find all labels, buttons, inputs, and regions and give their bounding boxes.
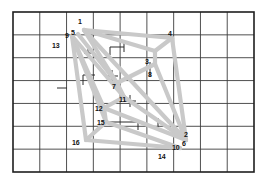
node-label-12: 12 xyxy=(95,105,102,112)
corner-mark xyxy=(110,47,124,55)
edge-layer xyxy=(72,30,186,148)
node-label-2: 2 xyxy=(184,131,188,138)
node-label-7: 7 xyxy=(112,83,116,90)
diagram-canvas: 12345678910111213141516 xyxy=(0,0,266,184)
node-label-8: 8 xyxy=(148,71,152,78)
node-label-9: 9 xyxy=(65,32,69,39)
node-label-11: 11 xyxy=(119,96,126,103)
node-label-5: 5 xyxy=(71,29,75,36)
diagram-svg xyxy=(0,0,266,184)
edge-3-4 xyxy=(155,38,172,51)
node-label-6: 6 xyxy=(182,140,186,147)
node-label-13: 13 xyxy=(52,42,59,49)
node-label-1: 1 xyxy=(78,18,82,25)
node-label-3: 3 xyxy=(145,58,149,65)
node-label-10: 10 xyxy=(172,144,179,151)
node-label-14: 14 xyxy=(158,153,165,160)
node-label-4: 4 xyxy=(168,30,172,37)
node-label-16: 16 xyxy=(72,139,79,146)
node-label-15: 15 xyxy=(97,119,104,126)
